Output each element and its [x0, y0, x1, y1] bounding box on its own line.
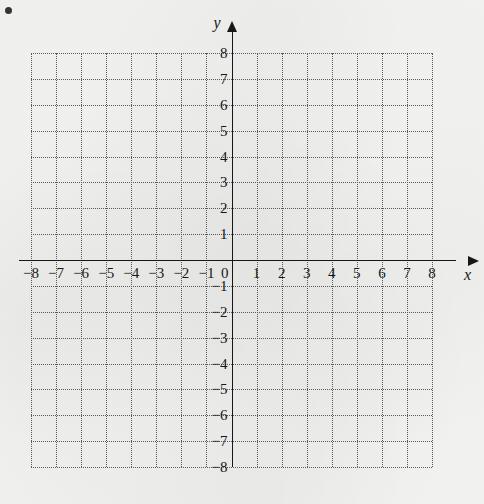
x-tick-label: 4 — [328, 266, 336, 281]
figure-canvas: −8−7−6−5−4−3−2−112345678−8−7−6−5−4−3−2−1… — [0, 0, 484, 504]
y-tick-label: 1 — [220, 227, 228, 242]
y-tick-label: 4 — [220, 149, 228, 164]
y-axis-label: y — [214, 15, 221, 31]
y-tick-label: −5 — [212, 382, 228, 397]
y-tick-label: 8 — [220, 46, 228, 61]
x-tick-label: −3 — [148, 266, 164, 281]
x-tick-label: 1 — [253, 266, 261, 281]
y-tick-label: −2 — [212, 304, 228, 319]
y-tick-label: −3 — [212, 330, 228, 345]
y-axis-line — [232, 31, 233, 467]
x-tick-label: −7 — [48, 266, 64, 281]
x-tick-label: 8 — [428, 266, 436, 281]
x-axis-arrow-icon — [468, 256, 479, 266]
x-axis-line — [19, 260, 456, 261]
coordinate-plane — [31, 53, 432, 467]
y-tick-label: 6 — [220, 97, 228, 112]
x-tick-label: −2 — [173, 266, 189, 281]
y-tick-label: −7 — [212, 434, 228, 449]
x-tick-label: −1 — [198, 266, 214, 281]
x-tick-label: 7 — [403, 266, 411, 281]
y-tick-label: 7 — [220, 71, 228, 86]
origin-label: 0 — [221, 266, 229, 281]
y-tick-label: 3 — [220, 175, 228, 190]
x-tick-label: −8 — [23, 266, 39, 281]
x-tick-label: −4 — [123, 266, 139, 281]
grid-line-horizontal — [31, 467, 432, 468]
x-tick-label: 3 — [303, 266, 311, 281]
y-tick-label: −4 — [212, 356, 228, 371]
y-tick-label: −8 — [212, 460, 228, 475]
x-tick-label: −6 — [73, 266, 89, 281]
x-tick-label: −5 — [98, 266, 114, 281]
x-tick-label: 6 — [378, 266, 386, 281]
y-tick-label: −6 — [212, 408, 228, 423]
y-tick-label: 5 — [220, 123, 228, 138]
bullet-point-marker — [5, 7, 12, 14]
y-tick-label: 2 — [220, 201, 228, 216]
y-axis-arrow-icon — [227, 21, 237, 32]
x-tick-label: 2 — [278, 266, 286, 281]
x-axis-label: x — [464, 267, 471, 283]
x-tick-label: 5 — [353, 266, 361, 281]
